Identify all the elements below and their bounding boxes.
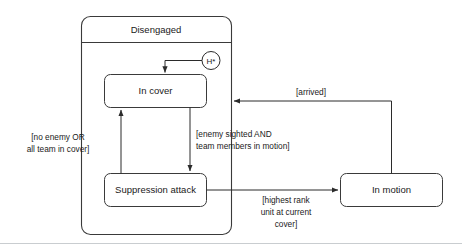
state-machine-diagram: Disengaged H* In cover Suppression attac… (0, 0, 462, 249)
guard-label-suppression-to-in-cover: [no enemy OR all team in cover] (27, 132, 90, 154)
composite-state-title: Disengaged (131, 24, 182, 35)
state-suppression-attack-label: Suppression attack (115, 184, 196, 195)
guard-line-1: [enemy sighted AND (196, 129, 272, 139)
guard-line-1: [no enemy OR (31, 132, 85, 142)
guard-label-arrived: [arrived] (296, 87, 326, 97)
state-in-motion-label: In motion (372, 184, 411, 195)
guard-line-3: cover] (275, 219, 298, 229)
guard-line-2: team members in motion] (196, 141, 290, 151)
guard-line-1: [highest rank (262, 195, 310, 205)
guard-line-1: [arrived] (296, 87, 326, 97)
deep-history-label: H* (207, 57, 216, 66)
guard-label-suppression-to-in-motion: [highest rank unit at current cover] (261, 195, 312, 229)
diagram-canvas: Disengaged H* In cover Suppression attac… (0, 0, 462, 249)
state-in-cover-label: In cover (139, 85, 173, 96)
guard-line-2: all team in cover] (27, 144, 90, 154)
page-separator-rule (0, 243, 462, 244)
guard-line-2: unit at current (261, 207, 312, 217)
pseudostate-deep-history[interactable]: H* (202, 52, 220, 70)
